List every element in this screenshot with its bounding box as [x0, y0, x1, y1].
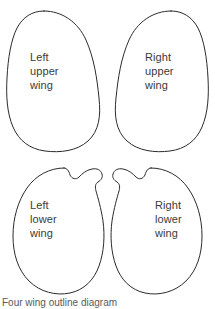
left-upper-wing-label: Left upper wing: [30, 50, 59, 93]
right-upper-wing-label: Right upper wing: [145, 50, 174, 93]
left-lower-wing-label: Left lower wing: [30, 198, 57, 241]
left-lower-wing-outline: [13, 168, 104, 294]
figure-caption-clipped: Four wing outline diagram: [2, 297, 213, 309]
right-lower-wing-label: Right lower wing: [155, 198, 182, 241]
